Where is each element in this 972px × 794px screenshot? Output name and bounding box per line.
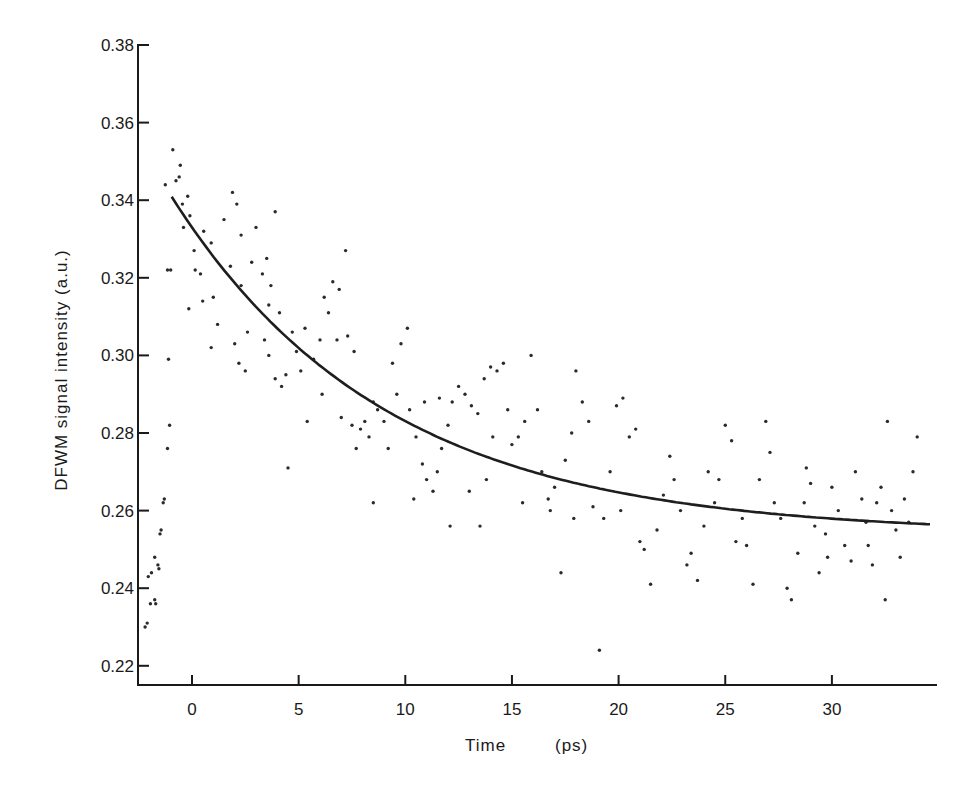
data-point bbox=[489, 365, 492, 368]
data-point bbox=[476, 412, 479, 415]
data-point bbox=[495, 369, 498, 372]
data-point bbox=[547, 497, 550, 500]
data-point bbox=[602, 517, 605, 520]
data-point bbox=[338, 288, 341, 291]
data-point bbox=[199, 272, 202, 275]
axes: 0.220.240.260.280.300.320.340.360.38 051… bbox=[101, 36, 937, 719]
data-point bbox=[166, 268, 169, 271]
data-point bbox=[346, 334, 349, 337]
data-point bbox=[773, 501, 776, 504]
data-point bbox=[231, 191, 234, 194]
data-point bbox=[229, 265, 232, 268]
y-tick-label: 0.36 bbox=[101, 114, 134, 133]
x-tick-label: 25 bbox=[716, 700, 735, 719]
data-point bbox=[355, 447, 358, 450]
data-point bbox=[153, 598, 156, 601]
x-axis-title: Time bbox=[465, 736, 506, 755]
data-point bbox=[431, 490, 434, 493]
y-tick-label: 0.22 bbox=[101, 657, 134, 676]
data-point bbox=[805, 466, 808, 469]
y-tick-label: 0.24 bbox=[101, 579, 134, 598]
data-point bbox=[899, 556, 902, 559]
data-point bbox=[570, 431, 573, 434]
data-point bbox=[306, 420, 309, 423]
data-point bbox=[421, 462, 424, 465]
data-point bbox=[395, 393, 398, 396]
data-point bbox=[830, 486, 833, 489]
dfwm-decay-chart: 0.220.240.260.280.300.320.340.360.38 051… bbox=[0, 0, 972, 794]
data-point bbox=[201, 299, 204, 302]
data-point bbox=[291, 330, 294, 333]
data-point bbox=[406, 327, 409, 330]
data-point bbox=[244, 369, 247, 372]
x-tick-label: 30 bbox=[822, 700, 841, 719]
data-point bbox=[335, 338, 338, 341]
data-point bbox=[879, 486, 882, 489]
data-point bbox=[192, 249, 195, 252]
data-point bbox=[367, 435, 370, 438]
data-point bbox=[318, 338, 321, 341]
data-point bbox=[284, 373, 287, 376]
x-tick-label: 10 bbox=[396, 700, 415, 719]
data-point bbox=[359, 427, 362, 430]
data-point bbox=[591, 505, 594, 508]
data-point bbox=[619, 509, 622, 512]
data-point bbox=[837, 509, 840, 512]
data-point bbox=[764, 420, 767, 423]
data-point bbox=[167, 358, 170, 361]
data-point bbox=[707, 470, 710, 473]
data-point bbox=[871, 563, 874, 566]
data-point bbox=[813, 524, 816, 527]
data-point bbox=[194, 268, 197, 271]
data-point bbox=[174, 179, 177, 182]
data-point bbox=[483, 377, 486, 380]
data-point bbox=[559, 571, 562, 574]
data-point bbox=[163, 497, 166, 500]
data-point bbox=[724, 424, 727, 427]
data-point bbox=[216, 323, 219, 326]
y-tick-label: 0.28 bbox=[101, 424, 134, 443]
data-point bbox=[854, 470, 857, 473]
data-point bbox=[327, 311, 330, 314]
data-point bbox=[440, 447, 443, 450]
data-point bbox=[529, 354, 532, 357]
data-point bbox=[564, 459, 567, 462]
data-point bbox=[157, 567, 160, 570]
data-point bbox=[621, 396, 624, 399]
data-point bbox=[267, 354, 270, 357]
data-point bbox=[826, 556, 829, 559]
data-point bbox=[506, 408, 509, 411]
data-point bbox=[730, 439, 733, 442]
data-point bbox=[572, 517, 575, 520]
data-point bbox=[875, 501, 878, 504]
data-point bbox=[331, 280, 334, 283]
x-tick-label: 20 bbox=[609, 700, 628, 719]
data-point bbox=[278, 311, 281, 314]
data-point bbox=[391, 362, 394, 365]
y-axis-ticks: 0.220.240.260.280.300.320.340.360.38 bbox=[101, 36, 149, 676]
data-point bbox=[372, 501, 375, 504]
data-point bbox=[235, 202, 238, 205]
data-point bbox=[689, 552, 692, 555]
data-point bbox=[510, 443, 513, 446]
data-point bbox=[679, 509, 682, 512]
data-point bbox=[154, 602, 157, 605]
data-point bbox=[628, 435, 631, 438]
data-point bbox=[286, 466, 289, 469]
data-point bbox=[581, 400, 584, 403]
data-point bbox=[446, 424, 449, 427]
data-point bbox=[164, 183, 167, 186]
data-point bbox=[843, 544, 846, 547]
data-point bbox=[344, 249, 347, 252]
data-point bbox=[867, 544, 870, 547]
data-point bbox=[269, 284, 272, 287]
data-point bbox=[274, 210, 277, 213]
data-point bbox=[222, 218, 225, 221]
data-point bbox=[162, 501, 165, 504]
data-point bbox=[649, 583, 652, 586]
data-point bbox=[655, 528, 658, 531]
data-point bbox=[672, 478, 675, 481]
data-point bbox=[894, 528, 897, 531]
data-point bbox=[295, 350, 298, 353]
data-point bbox=[412, 497, 415, 500]
